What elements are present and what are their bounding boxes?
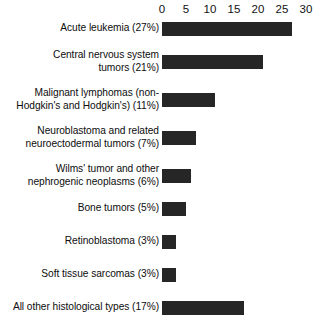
bar [162,235,176,249]
x-axis: 051015202530 [0,2,318,20]
bar [162,93,215,107]
bar-category-label: All other histological types (17%) [7,301,159,313]
bar [162,202,186,216]
bar [162,22,292,36]
bar-category-label: Central nervous system tumors (21%) [7,49,159,73]
bar [162,268,176,282]
bar-category-label: Wilms' tumor and other nephrogenic neopl… [7,163,159,187]
x-axis-tick-label: 10 [204,2,217,16]
bar-category-label: Malignant lymphomas (non- Hodgkin's and … [7,87,159,111]
x-axis-tick-label: 25 [276,2,289,16]
bar-category-label: Bone tumors (5%) [7,202,159,214]
bar [162,169,191,183]
plot-area: Acute leukemia (27%)Central nervous syst… [0,20,318,312]
x-axis-tick-label: 5 [183,2,190,16]
x-axis-tick-label: 15 [228,2,241,16]
x-axis-tick-label: 0 [159,2,166,16]
bar-category-label: Soft tissue sarcomas (3%) [7,268,159,280]
bar-category-label: Acute leukemia (27%) [7,22,159,34]
bar-category-label: Neuroblastoma and related neuroectoderma… [7,125,159,149]
bar [162,131,196,145]
x-axis-tick-label: 30 [300,2,313,16]
x-axis-tick-label: 20 [252,2,265,16]
bar [162,301,244,315]
bar [162,55,263,69]
bar-category-label: Retinoblastoma (3%) [7,235,159,247]
